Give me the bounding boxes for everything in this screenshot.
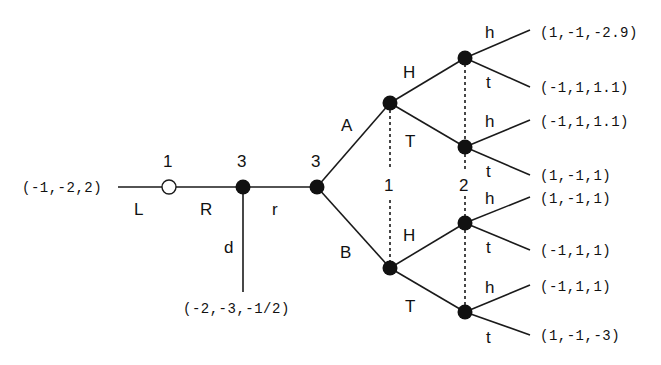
action-label-L: L [134, 200, 143, 219]
edge-h3 [465, 197, 530, 223]
player-label-root: 1 [163, 152, 172, 171]
edge-t3 [465, 223, 530, 250]
payoff-AHh: (1,-1,-2.9) [540, 25, 638, 41]
decision-node-2c [458, 216, 473, 231]
player-label-3a: 3 [237, 152, 246, 171]
action-label-H-bot: H [403, 226, 415, 245]
decision-node-1-top [383, 96, 398, 111]
edge-H-top [390, 58, 465, 103]
edge-A [317, 103, 390, 187]
edge-t2 [465, 147, 530, 175]
decision-node-3b [310, 180, 325, 195]
action-label-B: B [340, 243, 351, 262]
info-set-label-1: 1 [384, 176, 393, 195]
action-label-R: R [200, 200, 212, 219]
action-label-d: d [224, 238, 233, 257]
decision-node-2d [458, 305, 473, 320]
action-label-T-top: T [405, 132, 415, 151]
edge-T-top [390, 103, 465, 147]
edge-B [317, 187, 390, 268]
info-set-label-2: 2 [459, 176, 468, 195]
payoff-BHh: (1,-1,1) [540, 191, 611, 207]
decision-node-1-bottom [383, 261, 398, 276]
decision-node-root [162, 180, 176, 194]
action-label-h4: h [485, 278, 494, 297]
payoff-ATt: (1,-1,1) [540, 168, 611, 184]
player-label-3b: 3 [311, 152, 320, 171]
action-label-t1: t [486, 73, 491, 92]
payoff-L: (-1,-2,2) [22, 180, 102, 196]
action-label-t3: t [486, 238, 491, 257]
edge-H-bot [390, 223, 465, 268]
edge-h2 [465, 120, 530, 147]
action-label-h1: h [485, 23, 494, 42]
decision-node-3a [236, 180, 251, 195]
action-label-H-top: H [403, 63, 415, 82]
payoff-BTh: (-1,1,1) [540, 279, 611, 295]
payoff-ATh: (-1,1,1.1) [540, 114, 629, 130]
game-tree: 1 3 3 1 2 L R r d A B H T H T h t h t h … [0, 0, 661, 365]
edge-h1 [465, 30, 530, 58]
decision-node-2a [458, 51, 473, 66]
edge-t1 [465, 58, 530, 87]
decision-node-2b [458, 140, 473, 155]
action-label-r: r [272, 200, 278, 219]
action-label-h3: h [485, 189, 494, 208]
edge-t4 [465, 312, 530, 335]
action-label-t4: t [486, 328, 491, 347]
payoff-AHt: (-1,1,1.1) [540, 80, 629, 96]
payoff-BTt: (1,-1,-3) [540, 328, 620, 344]
action-label-A: A [341, 116, 353, 135]
payoff-d: (-2,-3,-1/2) [183, 301, 290, 317]
edge-T-bot [390, 268, 465, 312]
action-label-T-bot: T [405, 297, 415, 316]
action-label-h2: h [485, 112, 494, 131]
payoff-BHt: (-1,1,1) [540, 243, 611, 259]
action-label-t2: t [486, 162, 491, 181]
edge-h4 [465, 285, 530, 312]
